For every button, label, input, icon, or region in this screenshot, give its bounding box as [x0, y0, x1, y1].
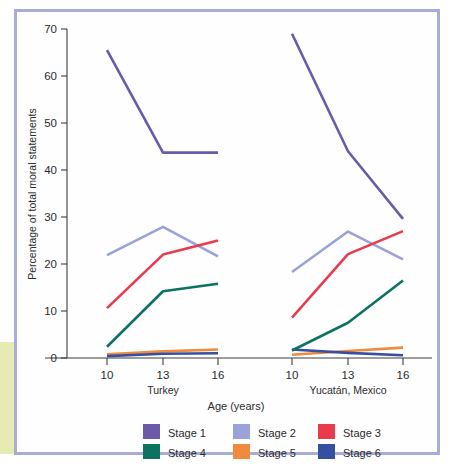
legend-label-stage-4: Stage 4 — [168, 447, 206, 459]
legend-swatch-stage-3 — [318, 424, 335, 439]
y-tick-label: 60 — [44, 70, 57, 82]
legend-swatch-stage-4 — [143, 444, 160, 459]
chart-legend: Stage 1Stage 2Stage 3Stage 4Stage 5Stage… — [143, 424, 381, 459]
x-tick-label: 13 — [342, 369, 355, 381]
legend-swatch-stage-6 — [318, 444, 335, 459]
x-axis-ticks-group-turkey — [107, 358, 218, 365]
y-tick-label: 30 — [44, 211, 57, 223]
x-axis-tick-labels-group-turkey: 10 13 16 — [101, 369, 225, 381]
line-chart: 70 60 50 40 30 20 10 0 Percentage of tot… — [0, 0, 455, 470]
plot-area: 70 60 50 40 30 20 10 0 Percentage of tot… — [0, 0, 455, 470]
y-axis-ticks — [61, 29, 67, 358]
data-series-layer — [107, 34, 403, 356]
series-line-stage-4-yucatan — [292, 280, 403, 350]
y-tick-label: 50 — [44, 117, 57, 129]
legend-label-stage-6: Stage 6 — [343, 447, 381, 459]
y-axis-tick-labels: 70 60 50 40 30 20 10 0 — [44, 23, 57, 364]
series-line-stage-1-turkey — [107, 50, 218, 152]
x-axis-ticks-group-yucatan — [292, 358, 403, 365]
series-line-stage-3-turkey — [107, 241, 218, 309]
legend-label-stage-3: Stage 3 — [343, 427, 381, 439]
y-tick-label: 70 — [44, 23, 57, 35]
x-tick-label: 10 — [286, 369, 299, 381]
x-tick-label: 10 — [101, 369, 114, 381]
series-line-stage-1-yucatan — [292, 34, 403, 219]
figure-canvas: 70 60 50 40 30 20 10 0 Percentage of tot… — [0, 0, 455, 470]
legend-swatch-stage-1 — [143, 424, 160, 439]
legend-swatch-stage-2 — [233, 424, 250, 439]
x-tick-label: 16 — [212, 369, 225, 381]
y-tick-label: 10 — [44, 305, 57, 317]
legend-label-stage-1: Stage 1 — [168, 427, 206, 439]
series-line-stage-3-yucatan — [292, 231, 403, 317]
x-axis-tick-labels-group-yucatan: 10 13 16 — [286, 369, 410, 381]
x-axis-title: Age (years) — [208, 400, 265, 412]
x-tick-label: 16 — [397, 369, 410, 381]
legend-label-stage-5: Stage 5 — [258, 447, 296, 459]
y-axis-title: Percentage of total moral statements — [26, 108, 38, 280]
y-tick-label: 20 — [44, 258, 57, 270]
y-tick-label: 40 — [44, 164, 57, 176]
legend-label-stage-2: Stage 2 — [258, 427, 296, 439]
legend-swatch-stage-5 — [233, 444, 250, 459]
series-line-stage-2-turkey — [107, 227, 218, 257]
group-label-turkey: Turkey — [147, 384, 179, 396]
x-tick-label: 13 — [157, 369, 170, 381]
group-label-yucatan: Yucatán, Mexico — [309, 384, 386, 396]
y-tick-label: 0 — [51, 352, 57, 364]
